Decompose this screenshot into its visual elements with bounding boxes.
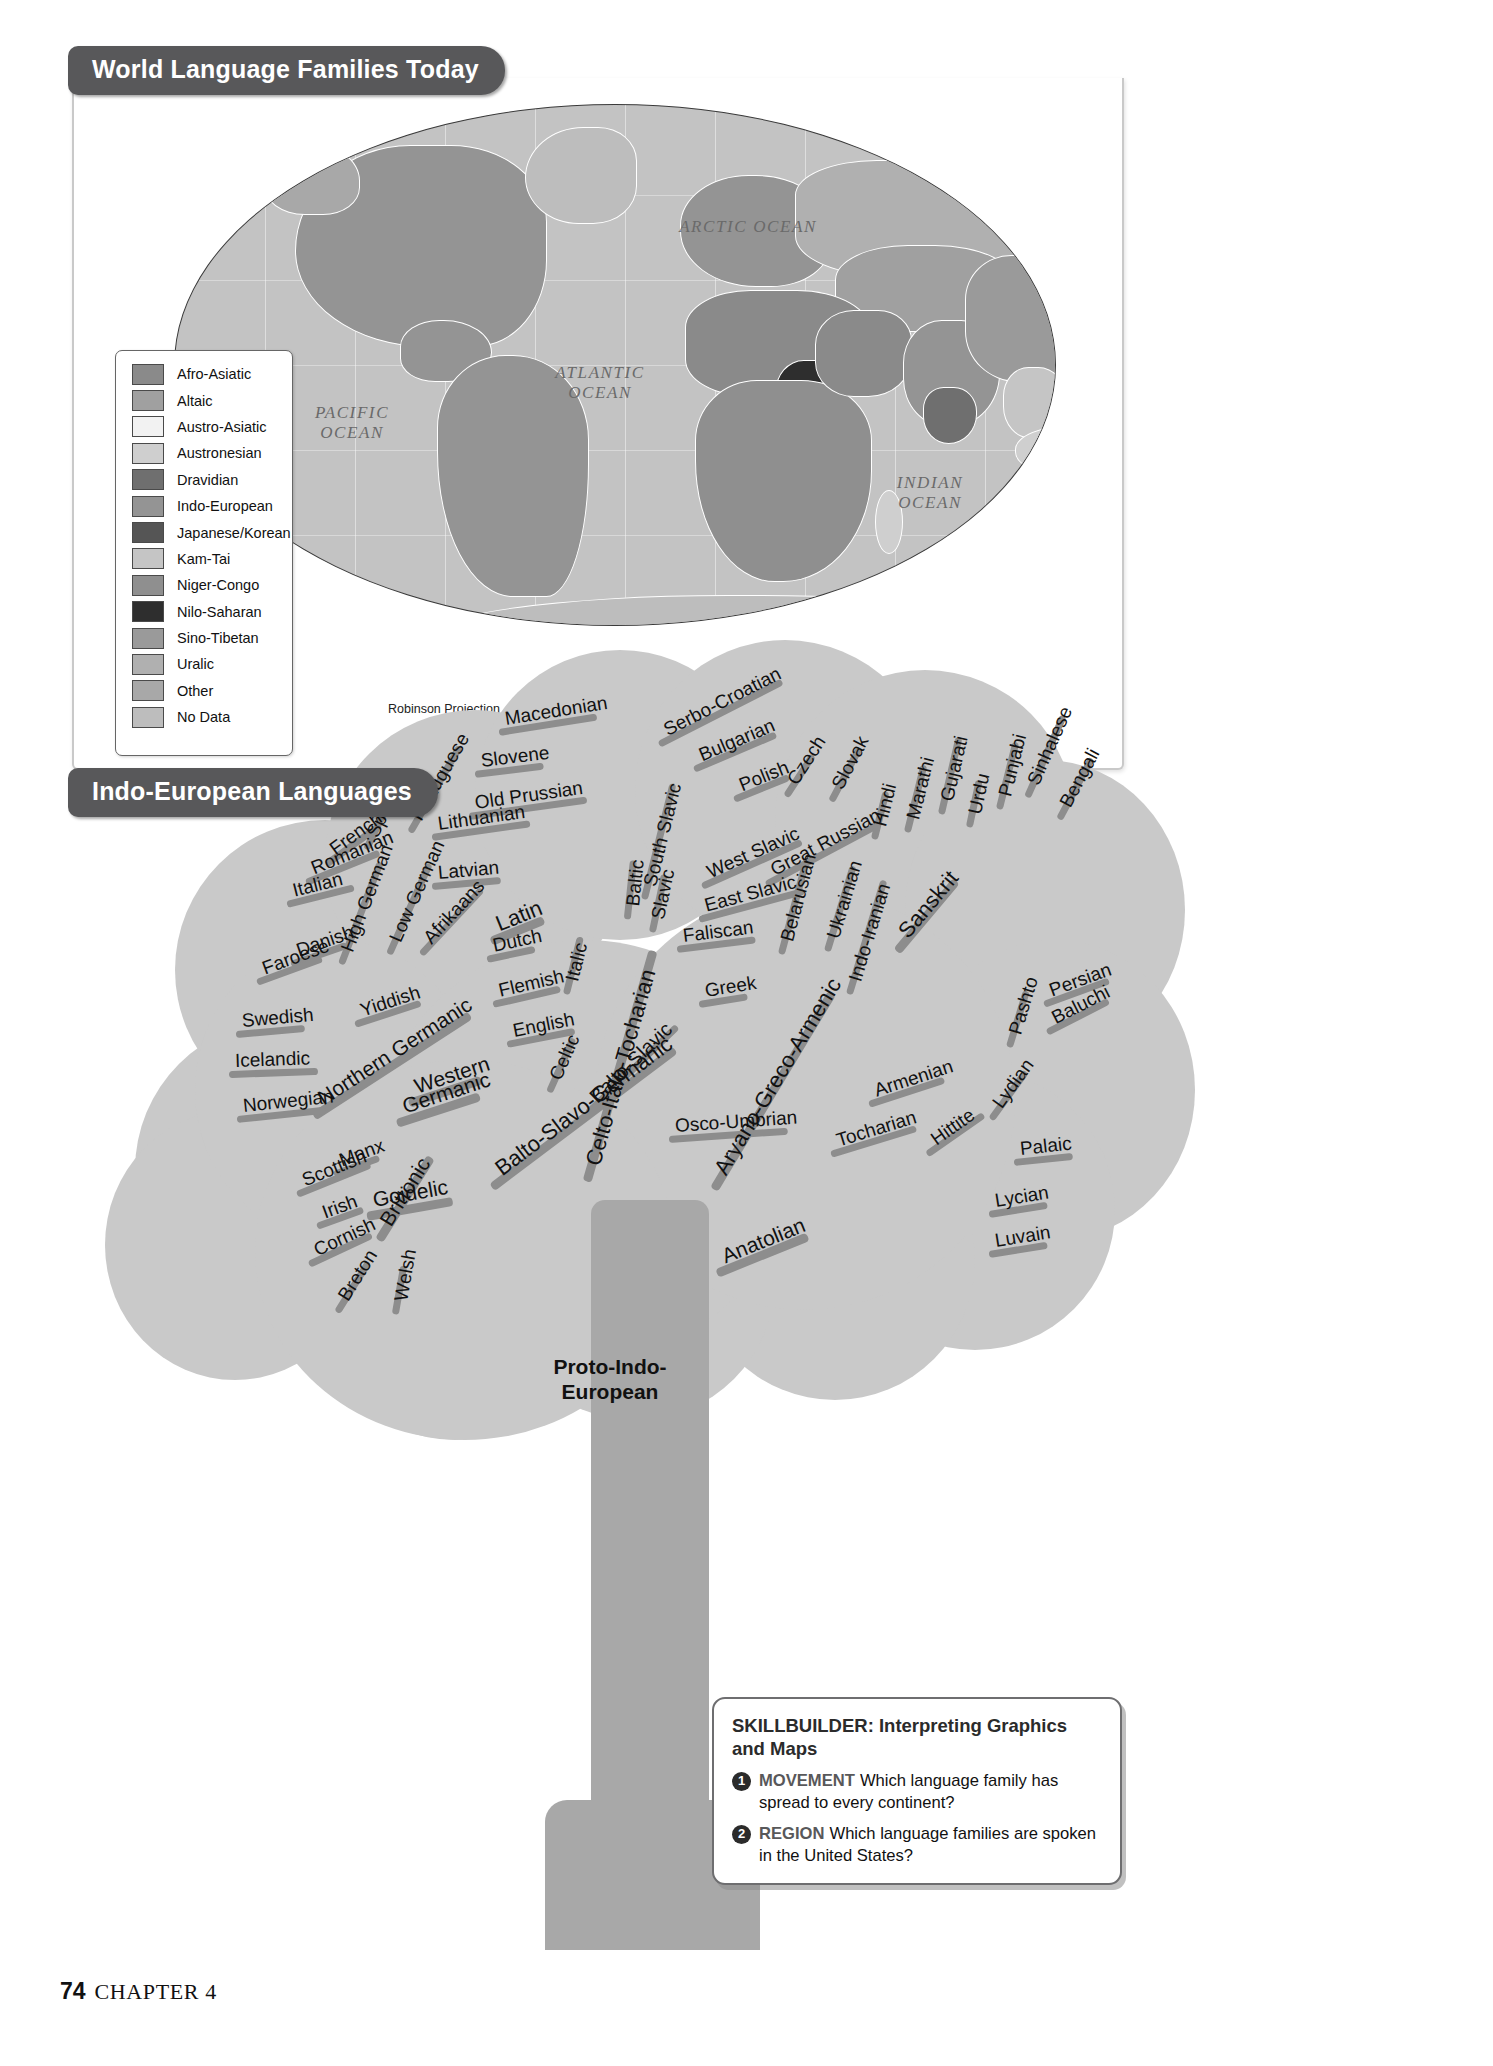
landmass-middle-east <box>815 310 912 397</box>
legend-label: Uralic <box>177 656 214 672</box>
ocean-label: PACIFIC OCEAN <box>287 403 417 442</box>
chapter-label: CHAPTER 4 <box>95 1979 217 2004</box>
legend-item: Indo-European <box>116 493 292 519</box>
legend-item: Afro-Asiatic <box>116 361 292 387</box>
tree-section-title: Indo-European Languages <box>68 768 438 817</box>
legend-label: Dravidian <box>177 472 238 488</box>
legend-label: Japanese/Korean <box>177 525 291 541</box>
legend-item: Kam-Tai <box>116 546 292 572</box>
legend-swatch <box>132 522 164 543</box>
map-section-title: World Language Families Today <box>68 46 505 95</box>
legend-swatch <box>132 496 164 517</box>
legend-label: Nilo-Saharan <box>177 604 262 620</box>
legend-swatch <box>132 680 164 701</box>
question-number-badge: 2 <box>732 1825 751 1844</box>
page-footer: 74 CHAPTER 4 <box>60 1978 217 2005</box>
legend-item: Niger-Congo <box>116 572 292 598</box>
landmass-alaska <box>263 143 360 215</box>
skillbuilder-question: 2 REGIONWhich language families are spok… <box>732 1823 1102 1866</box>
question-tag: REGION <box>759 1824 824 1843</box>
legend-label: Austronesian <box>177 445 262 461</box>
legend-swatch <box>132 628 164 649</box>
page-number: 74 <box>60 1978 86 2004</box>
legend-item: No Data <box>116 704 292 730</box>
question-number-badge: 1 <box>732 1772 751 1791</box>
legend-swatch <box>132 364 164 385</box>
legend-item: Other <box>116 678 292 704</box>
landmass-antarctica <box>420 595 1056 626</box>
landmass-china <box>965 255 1056 382</box>
legend-swatch <box>132 548 164 569</box>
landmass-south-america <box>437 355 589 597</box>
legend-swatch <box>132 707 164 728</box>
legend-item: Dravidian <box>116 467 292 493</box>
legend-label: Afro-Asiatic <box>177 366 251 382</box>
legend-label: No Data <box>177 709 230 725</box>
legend-swatch <box>132 390 164 411</box>
tree-root-label: Proto-Indo-European <box>535 1355 685 1405</box>
world-map-globe: ARCTIC OCEAN ATLANTIC OCEAN PACIFIC OCEA… <box>174 104 1056 626</box>
legend-item: Uralic <box>116 651 292 677</box>
legend-swatch <box>132 575 164 596</box>
legend-label: Kam-Tai <box>177 551 230 567</box>
legend-label: Other <box>177 683 213 699</box>
legend-swatch <box>132 443 164 464</box>
legend-item: Austro-Asiatic <box>116 414 292 440</box>
legend-label: Niger-Congo <box>177 577 259 593</box>
skillbuilder-heading: SKILLBUILDER: Interpreting Graphics and … <box>732 1714 1102 1760</box>
map-legend: Afro-AsiaticAltaicAustro-AsiaticAustrone… <box>115 350 293 756</box>
legend-item: Altaic <box>116 387 292 413</box>
legend-item: Nilo-Saharan <box>116 599 292 625</box>
legend-swatch <box>132 469 164 490</box>
legend-label: Sino-Tibetan <box>177 630 259 646</box>
skillbuilder-box: SKILLBUILDER: Interpreting Graphics and … <box>712 1697 1122 1885</box>
landmass-madagascar <box>875 490 903 554</box>
legend-label: Austro-Asiatic <box>177 419 266 435</box>
landmass-subsaharan-africa <box>695 380 872 582</box>
landmass-dravidian-south-india <box>923 387 977 444</box>
legend-item: Austronesian <box>116 440 292 466</box>
legend-item: Sino-Tibetan <box>116 625 292 651</box>
tree-language-label: Icelandic <box>235 1047 311 1072</box>
legend-item: Japanese/Korean <box>116 519 292 545</box>
landmass-greenland <box>525 127 637 224</box>
legend-swatch <box>132 416 164 437</box>
skillbuilder-question: 1 MOVEMENTWhich language family has spre… <box>732 1770 1102 1813</box>
legend-swatch <box>132 601 164 622</box>
legend-swatch <box>132 654 164 675</box>
question-tag: MOVEMENT <box>759 1771 855 1790</box>
legend-label: Indo-European <box>177 498 273 514</box>
legend-label: Altaic <box>177 393 212 409</box>
